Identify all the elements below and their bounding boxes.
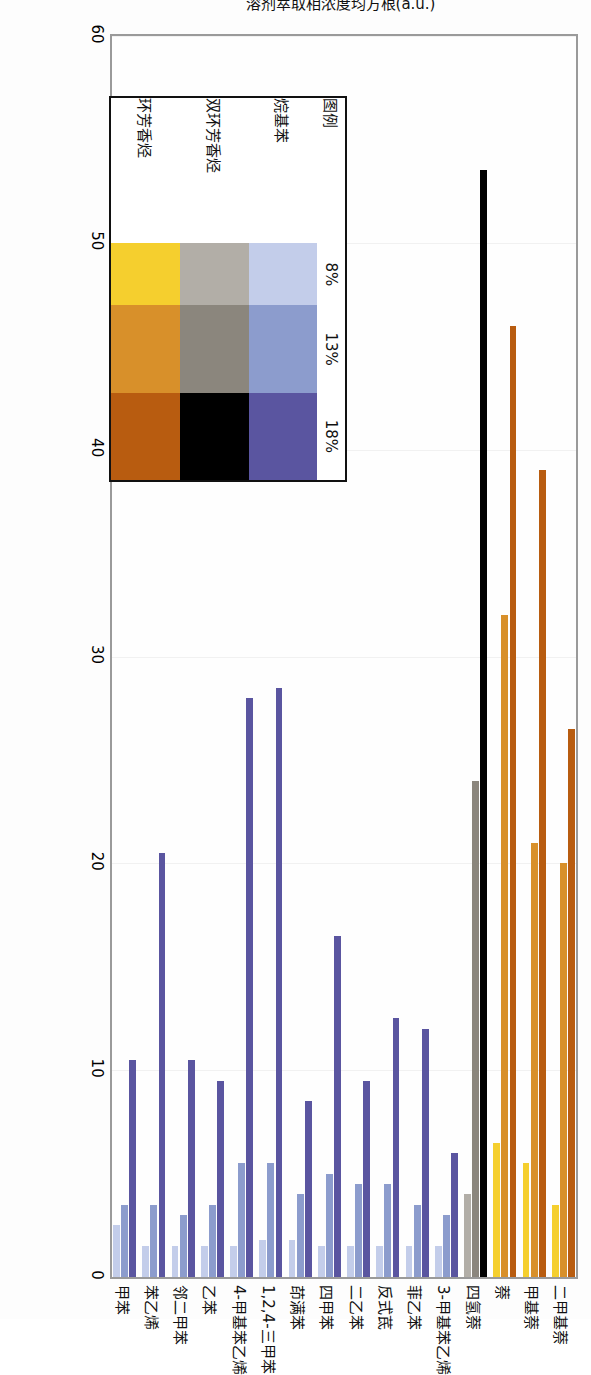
bar [393,1018,400,1277]
bar [259,1240,266,1277]
bar [289,1240,296,1277]
bar [355,1184,362,1277]
bar [406,1246,413,1277]
bar [501,615,508,1277]
value-tick-label: 10 [88,1058,106,1078]
bar [113,1225,120,1277]
bar [217,1081,224,1277]
category-label: 甲苯 [113,1285,134,1315]
bar [297,1194,304,1277]
y-axis-title: 溶剂萃取相浓度均方根(a.u.) [246,0,436,13]
bar [443,1215,450,1277]
bar [267,1163,274,1277]
value-tick-label: 40 [88,438,106,458]
bar [246,698,253,1277]
bar [363,1081,370,1277]
legend-swatch-cell [249,393,318,480]
legend-swatch [180,393,249,480]
legend-swatch-cell [180,305,249,392]
legend-swatch [249,393,318,480]
bar [568,729,575,1277]
bar [347,1246,354,1277]
category-label: 邻二甲苯 [171,1285,192,1345]
bar [464,1194,471,1277]
bar [493,1143,500,1277]
bar [305,1101,312,1277]
legend-swatch-cell [111,393,180,480]
category-label: 二乙苯 [347,1285,368,1330]
legend-row: 双环芳香烃 [180,98,249,480]
bar [510,326,517,1277]
legend-swatch [180,305,249,392]
bar [188,1060,195,1277]
legend-row-label: 烷基苯 [249,98,318,243]
legend-swatch-cell [111,243,180,305]
value-tick-label: 0 [88,1265,106,1285]
legend-swatch [111,393,180,480]
legend-swatch-cell [249,305,318,392]
category-label: 二甲基萘 [551,1285,572,1345]
value-tick-label: 30 [88,645,106,665]
bar-group [459,36,488,1277]
bar [539,470,546,1277]
bar [201,1246,208,1277]
legend-table: 图例8%13%18%烷基苯双环芳香烃环芳香烃 [111,98,345,480]
bar [121,1205,128,1277]
category-label: 萘 [493,1285,514,1300]
legend-swatch-cell [111,305,180,392]
legend-swatch [180,243,249,305]
bar [422,1029,429,1277]
bar-group [518,36,547,1277]
category-label: 苯乙烯 [142,1285,163,1330]
legend-swatch [249,243,318,305]
legend-column-header: 8% [317,243,345,305]
bar [159,853,166,1277]
category-label: 四氢萘 [464,1285,485,1330]
category-label: 菲乙苯 [405,1285,426,1330]
value-tick-label: 20 [88,851,106,871]
category-label: 反式茋 [376,1285,397,1330]
bar [334,936,341,1277]
legend-box: 图例8%13%18%烷基苯双环芳香烃环芳香烃 [109,96,347,482]
value-axis-ticks: 0102030405060 [82,34,106,1279]
bar [560,863,567,1277]
legend-swatch-cell [249,243,318,305]
category-label: 乙苯 [200,1285,221,1315]
bar-group [488,36,517,1277]
bar [552,1205,559,1277]
legend-header-row: 图例8%13%18% [317,98,345,480]
legend-row: 环芳香烃 [111,98,180,480]
bar [531,843,538,1277]
value-tick-label: 60 [88,24,106,44]
category-label: 四甲苯 [317,1285,338,1330]
bar [326,1174,333,1277]
bar [480,170,487,1277]
bar-group [401,36,430,1277]
gridline [110,1277,576,1278]
bar-group [371,36,400,1277]
category-label: 3-甲基苯乙烯 [434,1285,455,1375]
bar [142,1246,149,1277]
legend-swatch [111,243,180,305]
bar [376,1246,383,1277]
category-label: 甲基萘 [522,1285,543,1330]
bar [318,1246,325,1277]
legend-swatch-cell [180,393,249,480]
legend-row-label: 环芳香烃 [111,98,180,243]
legend-swatch [249,305,318,392]
category-label: 4-甲基苯乙烯 [230,1285,251,1375]
bar [180,1215,187,1277]
bar [435,1246,442,1277]
legend-column-header: 18% [317,393,345,480]
bar-group [430,36,459,1277]
bar [172,1246,179,1277]
bar [523,1163,530,1277]
bar [209,1205,216,1277]
bar [414,1205,421,1277]
legend-column-header: 13% [317,305,345,392]
legend-title: 图例 [317,98,345,243]
legend-swatch [111,305,180,392]
bar [276,688,283,1277]
